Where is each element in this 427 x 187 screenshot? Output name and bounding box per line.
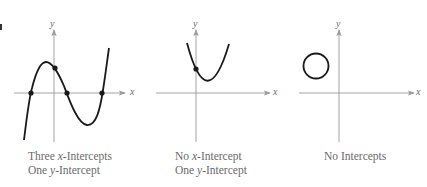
caption-panel-3: No Intercepts	[324, 149, 386, 163]
x-intercept-dot	[28, 90, 33, 95]
panel-cubic	[14, 30, 125, 142]
x-axis-label: x	[130, 86, 134, 97]
x-intercept-dot	[99, 90, 104, 95]
y-intercept-dot	[52, 65, 57, 70]
circle-curve	[304, 54, 329, 79]
y-axis-label: y	[336, 18, 340, 29]
y-axis-label: y	[50, 18, 54, 29]
x-axis-label: x	[416, 86, 420, 97]
x-axis-label: x	[273, 86, 277, 97]
caption-panel-1: Three x-Intercepts One y-Intercept	[28, 149, 112, 177]
panel-parabola	[156, 30, 270, 142]
y-axis-label: y	[193, 18, 197, 29]
y-intercept-dot	[193, 66, 198, 71]
x-intercept-dot	[64, 90, 69, 95]
panel-circle	[299, 30, 414, 142]
caption-panel-2: No x-Intercept One y-Intercept	[175, 149, 247, 177]
parabola-curve	[187, 43, 229, 81]
